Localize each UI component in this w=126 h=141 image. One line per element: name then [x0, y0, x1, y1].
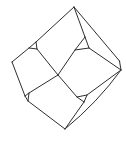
figure-canvas — [0, 0, 126, 141]
polyhedron-drawing — [0, 0, 126, 141]
